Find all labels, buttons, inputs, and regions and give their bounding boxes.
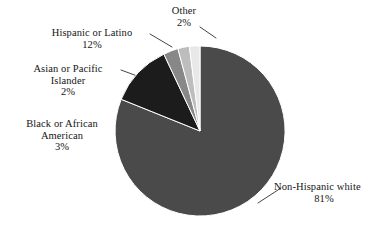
- pie-label-hispanic-or-latino-text: Hispanic or Latino: [52, 27, 133, 38]
- pie-label-asian-or-pacific-islander-text-line1: Asian or Pacific: [33, 63, 102, 74]
- pie-label-black-or-african-american-value: 3%: [4, 141, 120, 153]
- pie-label-other-text: Other: [172, 5, 196, 16]
- pie-label-asian-or-pacific-islander-value: 2%: [16, 86, 120, 98]
- pie-slices: [115, 46, 285, 216]
- pie-label-non-hispanic-white-value: 81%: [274, 193, 374, 205]
- pie-label-black-or-african-american-text-line2: American: [4, 130, 120, 142]
- pie-label-asian-or-pacific-islander-text-line2: Islander: [16, 75, 120, 87]
- pie-label-hispanic-or-latino-value: 12%: [36, 39, 148, 51]
- pie-label-non-hispanic-white-text: Non-Hispanic white: [274, 181, 361, 192]
- pie-label-black-or-african-american-text-line1: Black or African: [26, 118, 98, 129]
- leader-line-other: [200, 27, 216, 38]
- pie-chart: Other 2% Hispanic or Latino 12% Asian or…: [0, 0, 387, 232]
- pie-label-asian-or-pacific-islander: Asian or Pacific Islander 2%: [16, 63, 120, 98]
- pie-label-other: Other 2%: [153, 5, 215, 28]
- pie-label-hispanic-or-latino: Hispanic or Latino 12%: [36, 27, 148, 50]
- pie-label-other-value: 2%: [153, 17, 215, 29]
- pie-label-non-hispanic-white: Non-Hispanic white 81%: [274, 181, 386, 204]
- pie-label-black-or-african-american: Black or African American 3%: [4, 118, 120, 153]
- leader-line-hispanic: [150, 34, 172, 47]
